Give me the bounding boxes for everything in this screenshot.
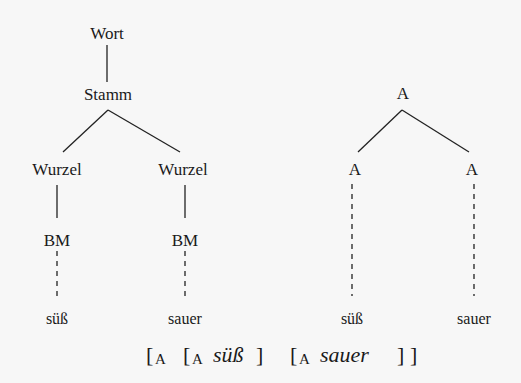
node-a-root: A [397,84,410,103]
edge-stamm-wurzel-right [108,110,180,152]
bracket-close-2: ] [397,342,404,367]
node-a-left: A [349,160,362,179]
edge-a-right [402,110,469,152]
node-bm-left: BM [44,231,70,250]
category-outer: A [155,351,166,367]
bracket-open-1: [ [183,342,190,367]
bracket-close-1: ] [256,342,263,367]
left-tree: Wort Stamm Wurzel Wurzel BM BM süß sauer [32,24,208,327]
word-sauer: sauer [320,342,369,367]
category-1: A [192,351,203,367]
node-bm-right: BM [172,231,198,250]
node-wurzel-right: Wurzel [158,160,208,179]
node-stamm: Stamm [84,85,132,104]
bracket-formula: [ A [ A süß ] [ A sauer ] ] [146,342,417,367]
bracket-close-outer: ] [410,342,417,367]
leaf-sauer-right: sauer [457,310,491,327]
edge-stamm-wurzel-left [63,110,108,152]
node-wort: Wort [90,24,124,43]
node-wurzel-left: Wurzel [32,160,82,179]
node-a-right: A [466,160,479,179]
bracket-open-2: [ [290,342,297,367]
leaf-sauer-left: sauer [168,310,202,327]
category-2: A [299,351,310,367]
morphology-diagram: Wort Stamm Wurzel Wurzel BM BM süß sauer… [0,0,521,383]
leaf-suess-left: süß [46,310,68,327]
bracket-open-outer: [ [146,342,153,367]
word-suess: süß [213,342,244,367]
leaf-suess-right: süß [341,310,363,327]
right-tree: A A A süß sauer [341,84,492,327]
edge-a-left [358,110,402,152]
